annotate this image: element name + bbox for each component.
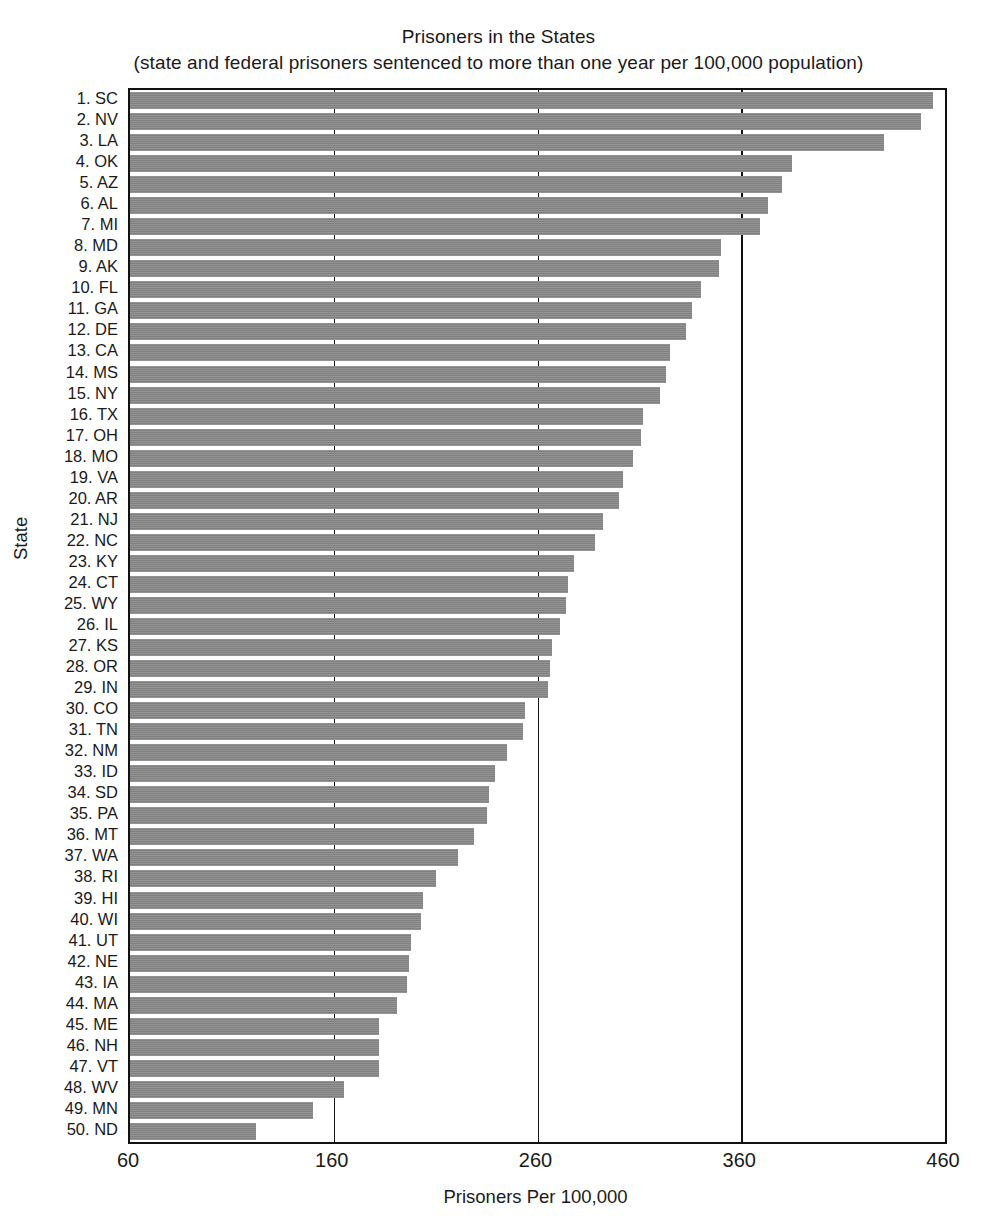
y-tick-label-ID: 33. ID bbox=[74, 761, 118, 782]
bar-row bbox=[130, 490, 945, 511]
bar-IA bbox=[130, 976, 407, 993]
y-tick-label-WI: 40. WI bbox=[70, 909, 118, 930]
bar-MN bbox=[130, 1102, 313, 1119]
y-tick-label-MT: 36. MT bbox=[67, 824, 118, 845]
bar-row bbox=[130, 532, 945, 553]
y-tick-label-OH: 17. OH bbox=[66, 425, 118, 446]
bar-row bbox=[130, 216, 945, 237]
y-tick-label-OR: 28. OR bbox=[66, 656, 118, 677]
bar-CO bbox=[130, 702, 525, 719]
bar-PA bbox=[130, 807, 487, 824]
bar-row bbox=[130, 826, 945, 847]
y-tick-label-UT: 41. UT bbox=[68, 930, 118, 951]
bar-RI bbox=[130, 870, 436, 887]
y-tick-label-MI: 7. MI bbox=[81, 214, 118, 235]
y-tick-label-NM: 32. NM bbox=[65, 740, 118, 761]
y-tick-label-NV: 2. NV bbox=[77, 109, 118, 130]
bar-TX bbox=[130, 408, 643, 425]
bar-row bbox=[130, 805, 945, 826]
y-tick-label-ND: 50. ND bbox=[67, 1119, 118, 1140]
y-tick-label-ME: 45. ME bbox=[66, 1014, 118, 1035]
bar-row bbox=[130, 511, 945, 532]
y-tick-label-PA: 35. PA bbox=[70, 803, 118, 824]
bar-MO bbox=[130, 450, 633, 467]
y-tick-label-NE: 42. NE bbox=[68, 951, 118, 972]
y-tick-label-TN: 31. TN bbox=[69, 719, 118, 740]
bar-row bbox=[130, 616, 945, 637]
bar-row bbox=[130, 1016, 945, 1037]
y-tick-label-RI: 38. RI bbox=[74, 866, 118, 887]
bar-row bbox=[130, 300, 945, 321]
x-axis-tick-labels: 60160260360460 bbox=[0, 1147, 997, 1173]
bar-row bbox=[130, 321, 945, 342]
x-tick-label-160: 160 bbox=[315, 1147, 348, 1173]
bar-WV bbox=[130, 1081, 344, 1098]
bar-row bbox=[130, 364, 945, 385]
y-tick-label-IN: 29. IN bbox=[74, 677, 118, 698]
y-tick-label-KY: 23. KY bbox=[68, 551, 118, 572]
bar-row bbox=[130, 911, 945, 932]
bar-SC bbox=[130, 92, 933, 109]
y-tick-label-HI: 39. HI bbox=[74, 888, 118, 909]
bar-NM bbox=[130, 744, 507, 761]
bar-IN bbox=[130, 681, 548, 698]
bar-row bbox=[130, 279, 945, 300]
bar-row bbox=[130, 132, 945, 153]
y-tick-label-LA: 3. LA bbox=[79, 130, 118, 151]
bar-row bbox=[130, 932, 945, 953]
bar-WA bbox=[130, 849, 458, 866]
bar-ND bbox=[130, 1123, 256, 1140]
y-tick-label-TX: 16. TX bbox=[70, 404, 118, 425]
bar-row bbox=[130, 385, 945, 406]
y-tick-label-IA: 43. IA bbox=[75, 972, 118, 993]
bar-GA bbox=[130, 302, 692, 319]
y-tick-label-SC: 1. SC bbox=[77, 88, 118, 109]
y-tick-label-AL: 6. AL bbox=[80, 193, 118, 214]
bar-row bbox=[130, 1079, 945, 1100]
bar-CA bbox=[130, 344, 670, 361]
bar-row bbox=[130, 742, 945, 763]
bar-VT bbox=[130, 1060, 379, 1077]
bar-row bbox=[130, 953, 945, 974]
bar-AZ bbox=[130, 176, 782, 193]
bar-row bbox=[130, 763, 945, 784]
y-tick-label-WA: 37. WA bbox=[65, 845, 119, 866]
bar-row bbox=[130, 406, 945, 427]
bar-row bbox=[130, 574, 945, 595]
y-axis-title: State bbox=[10, 517, 32, 560]
x-tick-label-260: 260 bbox=[519, 1147, 552, 1173]
bar-OH bbox=[130, 429, 641, 446]
bar-MD bbox=[130, 239, 721, 256]
bar-row bbox=[130, 1058, 945, 1079]
bar-NC bbox=[130, 534, 595, 551]
page-title: Prisoners in the States bbox=[0, 24, 997, 50]
bar-MI bbox=[130, 218, 760, 235]
bar-row bbox=[130, 237, 945, 258]
bar-MS bbox=[130, 366, 666, 383]
bar-row bbox=[130, 784, 945, 805]
y-tick-label-WY: 25. WY bbox=[64, 593, 118, 614]
bar-ME bbox=[130, 1018, 379, 1035]
bar-row bbox=[130, 721, 945, 742]
bar-VA bbox=[130, 471, 623, 488]
bar-row bbox=[130, 995, 945, 1016]
bar-row bbox=[130, 153, 945, 174]
x-tick-label-60: 60 bbox=[117, 1147, 139, 1173]
bar-WI bbox=[130, 913, 421, 930]
bar-row bbox=[130, 195, 945, 216]
bar-row bbox=[130, 427, 945, 448]
y-tick-label-AZ: 5. AZ bbox=[79, 172, 118, 193]
bar-row bbox=[130, 448, 945, 469]
y-tick-label-SD: 34. SD bbox=[68, 782, 118, 803]
bar-row bbox=[130, 974, 945, 995]
bar-row bbox=[130, 595, 945, 616]
y-tick-label-MD: 8. MD bbox=[74, 235, 118, 256]
bar-KY bbox=[130, 555, 574, 572]
y-tick-label-AK: 9. AK bbox=[79, 256, 118, 277]
y-tick-label-MS: 14. MS bbox=[66, 362, 118, 383]
bar-row bbox=[130, 679, 945, 700]
bar-row bbox=[130, 553, 945, 574]
bar-row bbox=[130, 90, 945, 111]
bar-row bbox=[130, 469, 945, 490]
bar-row bbox=[130, 174, 945, 195]
